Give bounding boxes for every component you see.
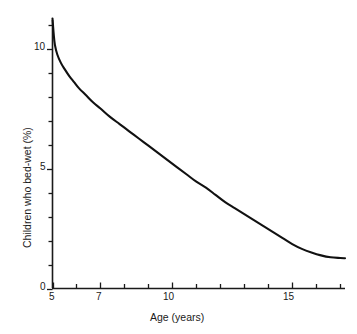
chart-plot-area: [0, 0, 357, 334]
series-line-0: [53, 19, 346, 259]
x-tick-label-15: 15: [283, 292, 294, 302]
y-tick-label-10: 10: [34, 42, 45, 52]
y-tick-label-0: 0: [40, 282, 46, 292]
x-tick-label-5: 5: [49, 292, 55, 302]
data-series-group: [53, 19, 346, 259]
x-axis-title: Age (years): [150, 312, 204, 323]
x-tick-label-7: 7: [96, 292, 102, 302]
x-tick-label-10: 10: [163, 292, 174, 302]
x-axis-ticks: [54, 283, 341, 289]
y-axis-ticks: [47, 26, 53, 290]
chart-figure: 0 5 10 5 7 10 15 Children who bed-wet (%…: [0, 0, 357, 334]
y-axis-title: Children who bed-wet (%): [22, 127, 33, 248]
y-tick-label-5: 5: [40, 162, 46, 172]
